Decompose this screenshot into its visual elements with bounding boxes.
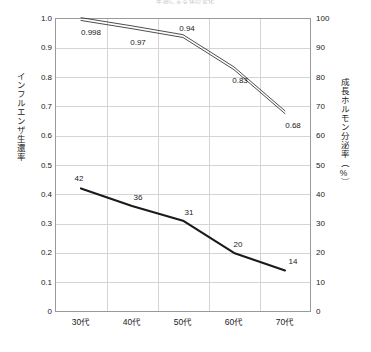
x-axis-tick: 40代: [106, 318, 158, 327]
y-axis-tick-right: 70: [316, 102, 344, 111]
y-axis-tick-left: 0.6: [26, 131, 52, 140]
y-axis-tick-right: 50: [316, 161, 344, 170]
y-axis-tick-right: 80: [316, 73, 344, 82]
y-axis-tick-right: 20: [316, 248, 344, 257]
y-axis-tick-left: 0.2: [26, 248, 52, 257]
data-label-growth-hormone: 31: [185, 208, 194, 217]
y-axis-tick-left: 0.8: [26, 73, 52, 82]
y-axis-tick-left: 0: [26, 307, 52, 316]
series-line-growth-hormone: [81, 188, 285, 270]
y-axis-tick-left: 0.9: [26, 43, 52, 52]
y-axis-tick-right: 100: [316, 14, 344, 23]
y-axis-tick-left: 0.5: [26, 161, 52, 170]
data-label-growth-hormone: 20: [234, 240, 243, 249]
y-axis-tick-right: 10: [316, 278, 344, 287]
data-label-survival-rate: 0.998: [81, 28, 101, 37]
data-label-survival-rate: 0.68: [285, 121, 301, 130]
y-axis-tick-right: 0: [316, 307, 344, 316]
data-label-growth-hormone: 14: [289, 257, 298, 266]
data-label-survival-rate: 0.97: [130, 38, 146, 47]
x-axis-tick: 60代: [208, 318, 260, 327]
y-axis-tick-left: 0.7: [26, 102, 52, 111]
y-axis-tick-right: 90: [316, 43, 344, 52]
gridlines: [56, 19, 311, 312]
y-axis-tick-right: 30: [316, 219, 344, 228]
chart-container: 年齢による体の変化 インフルエンザ生還率 成長ホルモン分泌率（%） 00.10.…: [0, 0, 371, 352]
y-axis-tick-right: 40: [316, 190, 344, 199]
data-label-survival-rate: 0.94: [179, 24, 195, 33]
y-axis-tick-left: 0.4: [26, 190, 52, 199]
y-axis-tick-left: 0.1: [26, 278, 52, 287]
x-axis-tick: 50代: [157, 318, 209, 327]
y-axis-tick-left: 0.3: [26, 219, 52, 228]
y-axis-tick-left: 1.0: [26, 14, 52, 23]
data-label-growth-hormone: 36: [134, 193, 143, 202]
data-label-growth-hormone: 42: [75, 174, 84, 183]
series-layer: [81, 18, 285, 271]
y-axis-tick-right: 60: [316, 131, 344, 140]
x-axis-tick: 30代: [55, 318, 107, 327]
x-axis-tick: 70代: [259, 318, 311, 327]
data-label-survival-rate: 0.83: [232, 76, 248, 85]
plot-area: [0, 0, 371, 352]
